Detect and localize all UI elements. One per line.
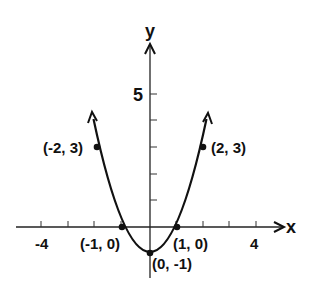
point-1-0 xyxy=(174,224,181,231)
y-tick-label-5: 5 xyxy=(133,86,143,104)
point-label-1-0: (1, 0) xyxy=(173,236,208,251)
curve-arrow-left-icon xyxy=(88,112,97,123)
curve-arrow-right-icon xyxy=(203,113,212,124)
point-label-m1-0: (-1, 0) xyxy=(80,236,120,251)
point-label-2-3: (2, 3) xyxy=(211,140,246,155)
x-tick-label-neg4: -4 xyxy=(35,236,48,251)
x-axis-label: x xyxy=(286,218,296,236)
point-m2-3 xyxy=(94,144,101,151)
point-label-0-m1: (0, -1) xyxy=(152,256,192,271)
x-tick-label-4: 4 xyxy=(250,236,258,251)
point-m1-0 xyxy=(119,224,126,231)
y-axis-label: y xyxy=(145,22,155,40)
point-2-3 xyxy=(200,144,207,151)
y-ticks xyxy=(150,94,157,200)
point-label-m2-3: (-2, 3) xyxy=(43,140,83,155)
x-ticks xyxy=(41,221,256,227)
